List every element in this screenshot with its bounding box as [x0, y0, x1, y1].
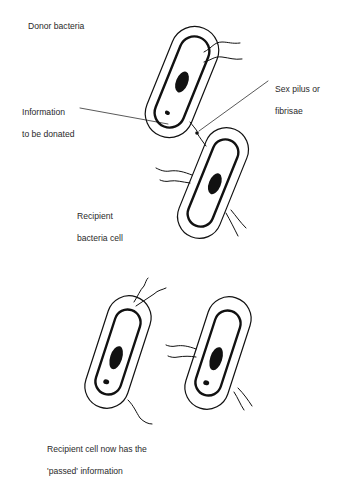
recipient-label: Recipient bacteria cell: [77, 200, 123, 255]
donor-bacteria-label: Donor bacteria: [28, 21, 84, 32]
donor-plasmid: [164, 110, 170, 116]
result-label: Recipient cell now has the 'passed' info…: [47, 433, 147, 480]
sex-pilus-label: Sex pilus or fibrisae: [275, 73, 320, 128]
pilus-leader-line: [199, 81, 268, 131]
donor-flagellum: [204, 57, 242, 62]
result-left-flagellum: [134, 278, 148, 302]
sex-pilus-label-line2: fibrisae: [275, 106, 320, 117]
sex-pilus-label-line1: Sex pilus or: [275, 84, 320, 95]
recipient-cell: [171, 121, 255, 245]
recipient-flagellum: [156, 168, 192, 175]
result-right-plasmid: [203, 380, 210, 386]
result-label-line1: Recipient cell now has the: [47, 444, 147, 455]
result-right-flagellum: [234, 392, 244, 410]
result-right-flagellum: [166, 345, 196, 349]
result-right-flagellum: [168, 356, 196, 357]
recipient-flagellum: [160, 180, 190, 183]
recipient-nucleoid: [205, 171, 224, 196]
information-label-line1: Information: [22, 107, 75, 118]
donor-nucleoid: [172, 70, 191, 95]
result-left-plasmid: [103, 379, 110, 385]
donor-pilus-base: [190, 122, 197, 131]
recipient-label-line2: bacteria cell: [77, 233, 123, 244]
information-label: Information to be donated: [22, 96, 75, 151]
recipient-flagellum: [231, 210, 246, 228]
result-left-flagellum: [128, 400, 152, 424]
result-label-line2: 'passed' information: [47, 466, 147, 477]
donor-cell: [138, 19, 226, 145]
result-left-nucleoid: [107, 344, 126, 371]
information-label-line2: to be donated: [22, 129, 75, 140]
result-right-nucleoid: [207, 345, 226, 372]
result-cell-left: [79, 290, 157, 414]
recipient-label-line1: Recipient: [77, 211, 123, 222]
